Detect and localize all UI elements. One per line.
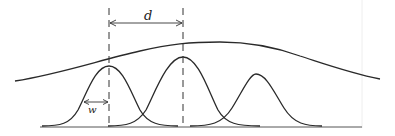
width-label: w — [88, 104, 97, 115]
resolution-diagram — [0, 0, 395, 136]
peak-1-curve — [42, 66, 178, 126]
peak-3-curve — [190, 74, 322, 126]
envelope-curve — [15, 42, 380, 81]
separation-label: d — [144, 8, 152, 23]
